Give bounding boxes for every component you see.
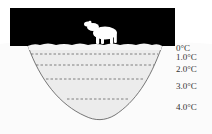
temp-label-3: 3.0°C	[176, 82, 197, 91]
ice-layer	[28, 44, 162, 51]
temp-label-4: 4.0°C	[176, 103, 197, 112]
temp-label-2: 2.0°C	[176, 65, 197, 74]
temp-label-1: 1.0°C	[176, 53, 197, 62]
